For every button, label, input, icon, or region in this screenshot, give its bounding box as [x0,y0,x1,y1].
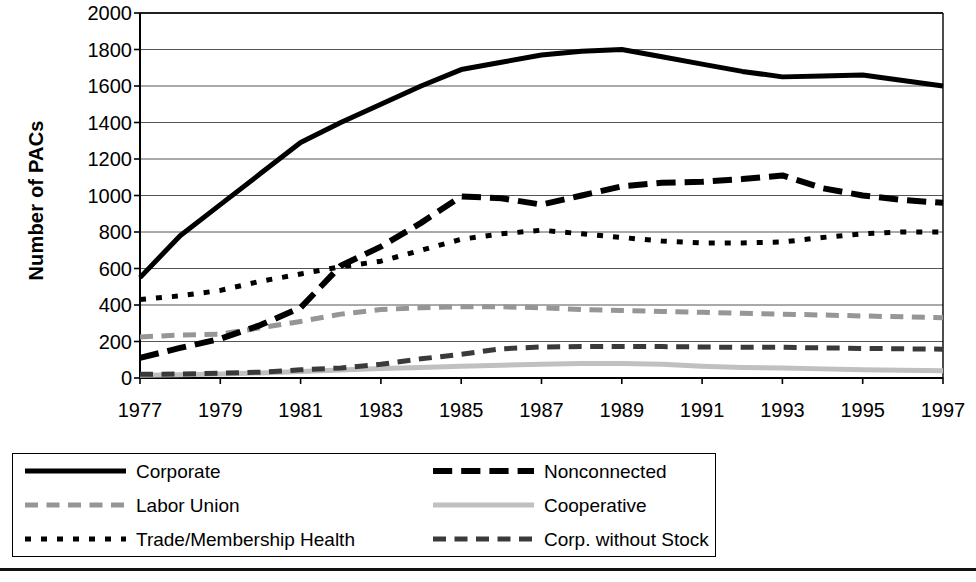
legend-label: Corporate [136,462,221,481]
legend-item: Nonconnected [421,454,717,488]
pac-growth-line-chart: Number of PACs 0200400600800100012001400… [0,0,976,582]
legend-label: Trade/Membership Health [136,530,355,549]
x-tick-label: 1983 [359,400,404,420]
legend-swatch-trade-membership-health [23,532,128,546]
legend-swatch-nonconnected [431,464,536,478]
series-line-trade-membership-health [140,230,943,299]
legend-swatch-corporate [23,464,128,478]
x-tick-label: 1987 [519,400,564,420]
series-line-corporate [140,50,943,278]
x-axis-tick-labels: 1977197919811983198519871989199119931995… [0,388,976,438]
bottom-divider [0,568,976,571]
x-tick-label: 1995 [840,400,885,420]
legend-swatch-corp-without-stock [431,532,536,546]
x-tick-label: 1981 [278,400,323,420]
plot-canvas [0,0,976,400]
legend-label: Corp. without Stock [544,530,709,549]
plot-area: Number of PACs 0200400600800100012001400… [0,0,976,440]
x-tick-label: 1993 [760,400,805,420]
x-tick-label: 1997 [921,400,966,420]
legend-item: Corp. without Stock [421,522,717,556]
x-tick-label: 1991 [680,400,725,420]
legend-swatch-cooperative [431,498,536,512]
legend-label: Cooperative [544,496,646,515]
x-tick-label: 1979 [198,400,243,420]
legend-swatch-labor-union [23,498,128,512]
series-line-nonconnected [140,175,943,357]
legend-label: Labor Union [136,496,240,515]
x-tick-label: 1977 [118,400,163,420]
legend-label: Nonconnected [544,462,667,481]
x-tick-label: 1985 [439,400,484,420]
legend-item: Cooperative [421,488,717,522]
x-tick-label: 1989 [600,400,645,420]
legend-item: Labor Union [13,488,421,522]
chart-legend: CorporateNonconnectedLabor UnionCooperat… [12,453,716,557]
legend-item: Trade/Membership Health [13,522,421,556]
legend-item: Corporate [13,454,421,488]
